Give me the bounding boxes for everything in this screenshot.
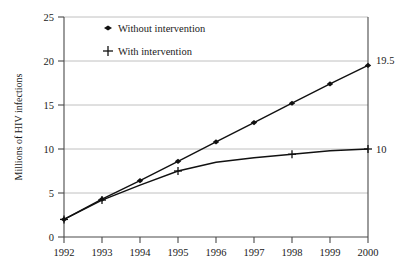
y-axis-title: Millions of HIV infections	[13, 74, 24, 181]
x-tick-label-2000: 2000	[358, 247, 379, 258]
x-tick-label-1996: 1996	[206, 247, 227, 258]
y-tick-label-20: 20	[44, 56, 55, 67]
legend-label-without: Without intervention	[118, 23, 206, 34]
y-tick-label-5: 5	[49, 188, 54, 199]
x-tick-label-1992: 1992	[54, 247, 75, 258]
x-tick-label-1997: 1997	[244, 247, 265, 258]
end-annotation-without: 19.5	[376, 55, 394, 66]
x-tick-label-1999: 1999	[320, 247, 341, 258]
chart-canvas: 25 20 15 10 5 0 1992 1993 1994 1995 1996…	[0, 0, 413, 265]
y-tick-label-25: 25	[44, 12, 55, 23]
legend-label-with: With intervention	[118, 46, 193, 57]
hiv-infections-line-chart: 25 20 15 10 5 0 1992 1993 1994 1995 1996…	[0, 0, 413, 265]
x-tick-label-1994: 1994	[130, 247, 152, 258]
x-tick-label-1993: 1993	[92, 247, 113, 258]
chart-background	[0, 0, 413, 265]
y-tick-label-10: 10	[44, 144, 55, 155]
legend-item-without[interactable]: Without intervention	[104, 23, 206, 34]
x-tick-label-1998: 1998	[282, 247, 303, 258]
y-tick-label-0: 0	[49, 232, 54, 243]
y-tick-label-15: 15	[44, 100, 55, 111]
x-tick-label-1995: 1995	[168, 247, 189, 258]
end-annotation-with: 10	[376, 144, 387, 155]
